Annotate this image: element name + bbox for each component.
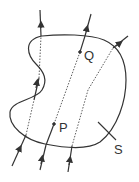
closed-surface-s <box>10 35 126 148</box>
point-p <box>53 123 56 126</box>
flux-diagram: Q P S <box>0 0 139 182</box>
label-p: P <box>59 120 68 135</box>
label-s: S <box>114 142 123 157</box>
field-line-left <box>12 10 41 166</box>
point-q <box>79 51 82 54</box>
label-q: Q <box>84 48 94 63</box>
label-s-leader <box>98 122 116 140</box>
